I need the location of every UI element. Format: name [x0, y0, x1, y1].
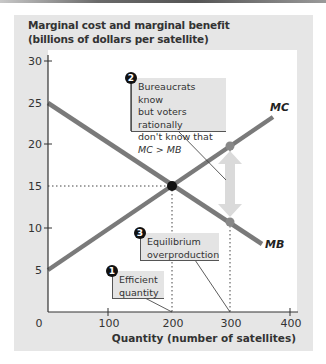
- mc-point-300: [226, 142, 235, 151]
- callout-2-line2: but voters rationally: [138, 106, 222, 131]
- y-tick-10: 10: [28, 222, 42, 235]
- x-axis-title: Quantity (number of satellites): [112, 332, 296, 344]
- callout-2-line4: MC > MB: [138, 144, 222, 157]
- y-tick-25: 25: [28, 97, 42, 110]
- callout-3-badge: 3: [134, 227, 146, 239]
- callout-2-line1: Bureaucrats know: [138, 81, 222, 106]
- y-tick-15: 15: [28, 180, 42, 193]
- callout-1-line1: Efficient: [119, 274, 160, 287]
- x-tick-0: 0: [36, 317, 43, 330]
- callout-3-line1: Equilibrium: [147, 236, 215, 249]
- callout-2-line3: don't know that: [138, 131, 222, 144]
- y-tick-30: 30: [28, 55, 42, 68]
- gap-double-arrow: [218, 151, 242, 217]
- x-tick-200: 200: [163, 317, 184, 330]
- callout-1-badge: 1: [106, 265, 118, 277]
- callout-3: Equilibrium overproduction: [140, 233, 219, 261]
- chart-svg: 30 25 20 15 10 5 0 100 200 300 400: [0, 0, 326, 364]
- y-tick-20: 20: [28, 138, 42, 151]
- callout-1-line2: quantity: [119, 287, 160, 300]
- callout-1: Efficient quantity: [112, 271, 164, 299]
- mb-label: MB: [265, 238, 284, 251]
- callout-2: Bureaucrats know but voters rationally d…: [131, 78, 226, 132]
- mc-label: MC: [270, 101, 289, 114]
- mb-point-300: [226, 218, 235, 227]
- callout-3-line2: overproduction: [147, 249, 215, 262]
- y-tick-5: 5: [35, 264, 42, 277]
- x-tick-300: 300: [221, 317, 242, 330]
- callout-2-badge: 2: [125, 72, 137, 84]
- callout-3-leader: [195, 260, 230, 312]
- callout-1-leader: [145, 298, 172, 312]
- x-tick-400: 400: [281, 317, 302, 330]
- equilibrium-point: [167, 181, 177, 191]
- x-tick-100: 100: [99, 317, 120, 330]
